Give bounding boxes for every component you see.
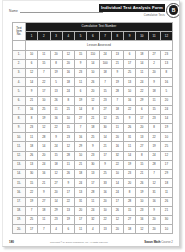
grid-cell[interactable]: 22 bbox=[136, 87, 148, 96]
grid-cell[interactable]: 9 bbox=[38, 188, 50, 197]
grid-cell[interactable]: 7 bbox=[38, 225, 50, 234]
grid-cell[interactable]: 13 bbox=[26, 160, 38, 169]
grid-cell[interactable]: 23 bbox=[160, 50, 172, 59]
grid-cell[interactable]: 9 bbox=[99, 160, 111, 169]
grid-cell[interactable]: 20 bbox=[50, 50, 62, 59]
grid-cell[interactable]: 13 bbox=[124, 78, 136, 87]
grid-cell[interactable]: 9 bbox=[87, 142, 99, 151]
grid-cell[interactable]: 26 bbox=[160, 197, 172, 206]
grid-cell[interactable]: 10 bbox=[87, 68, 99, 77]
grid-cell[interactable]: 100 bbox=[99, 59, 111, 68]
grid-cell[interactable]: 20 bbox=[75, 206, 87, 215]
grid-cell[interactable]: 23 bbox=[87, 151, 99, 160]
grid-cell[interactable]: 20 bbox=[111, 133, 123, 142]
grid-cell[interactable]: 21 bbox=[26, 96, 38, 105]
grid-cell[interactable]: 18 bbox=[124, 225, 136, 234]
grid-cell[interactable]: 27 bbox=[124, 215, 136, 224]
grid-cell[interactable]: 12 bbox=[99, 114, 111, 123]
grid-cell[interactable]: 9 bbox=[124, 114, 136, 123]
grid-cell[interactable]: 14 bbox=[75, 105, 87, 114]
grid-cell[interactable]: 10 bbox=[62, 114, 74, 123]
grid-cell[interactable]: 22 bbox=[124, 105, 136, 114]
grid-cell[interactable]: 26 bbox=[111, 206, 123, 215]
grid-cell[interactable]: 9 bbox=[75, 59, 87, 68]
grid-cell[interactable]: 20 bbox=[136, 124, 148, 133]
grid-cell[interactable]: 18 bbox=[50, 160, 62, 169]
grid-cell[interactable]: 11 bbox=[124, 142, 136, 151]
grid-cell[interactable]: 16 bbox=[124, 96, 136, 105]
grid-cell[interactable]: 22 bbox=[111, 160, 123, 169]
grid-cell[interactable]: 29 bbox=[136, 96, 148, 105]
grid-cell[interactable]: 18 bbox=[148, 87, 160, 96]
grid-cell[interactable]: 20 bbox=[50, 188, 62, 197]
grid-cell[interactable]: 16 bbox=[38, 170, 50, 179]
grid-cell[interactable]: 21 bbox=[87, 114, 99, 123]
grid-cell[interactable]: 9 bbox=[111, 68, 123, 77]
grid-cell[interactable]: 18 bbox=[38, 206, 50, 215]
grid-cell[interactable]: 23 bbox=[99, 96, 111, 105]
grid-cell[interactable]: 18 bbox=[87, 124, 99, 133]
grid-cell[interactable]: 16 bbox=[136, 215, 148, 224]
grid-cell[interactable]: 20 bbox=[160, 96, 172, 105]
grid-cell[interactable]: 10 bbox=[160, 133, 172, 142]
grid-cell[interactable]: 28 bbox=[148, 160, 160, 169]
grid-cell[interactable]: 27 bbox=[136, 142, 148, 151]
grid-cell[interactable]: 8 bbox=[26, 114, 38, 123]
grid-cell[interactable]: 8 bbox=[160, 68, 172, 77]
grid-cell[interactable]: 31 bbox=[75, 197, 87, 206]
grid-cell[interactable]: 6 bbox=[75, 87, 87, 96]
grid-cell[interactable]: 12 bbox=[62, 50, 74, 59]
grid-cell[interactable]: 11 bbox=[148, 96, 160, 105]
grid-cell[interactable]: 7 bbox=[148, 170, 160, 179]
grid-cell[interactable]: 6 bbox=[124, 50, 136, 59]
grid-cell[interactable]: 19 bbox=[160, 124, 172, 133]
grid-cell[interactable]: 18 bbox=[99, 68, 111, 77]
grid-cell[interactable]: 28 bbox=[87, 188, 99, 197]
grid-cell[interactable]: 20 bbox=[62, 59, 74, 68]
grid-cell[interactable]: 12 bbox=[50, 170, 62, 179]
name-write-in-line[interactable] bbox=[20, 8, 103, 13]
grid-cell[interactable]: 32 bbox=[87, 215, 99, 224]
grid-cell[interactable]: 18 bbox=[26, 142, 38, 151]
grid-cell[interactable]: 8 bbox=[50, 59, 62, 68]
grid-cell[interactable]: 29 bbox=[75, 142, 87, 151]
grid-cell[interactable]: 6 bbox=[62, 225, 74, 234]
grid-cell[interactable]: 11 bbox=[50, 105, 62, 114]
grid-cell[interactable]: 17 bbox=[87, 179, 99, 188]
grid-cell[interactable]: 27 bbox=[38, 197, 50, 206]
grid-cell[interactable]: 9 bbox=[148, 206, 160, 215]
grid-cell[interactable]: 25 bbox=[38, 105, 50, 114]
grid-cell[interactable]: 24 bbox=[38, 160, 50, 169]
grid-cell[interactable]: 23 bbox=[75, 68, 87, 77]
grid-cell[interactable]: 16 bbox=[75, 133, 87, 142]
grid-cell[interactable]: 9 bbox=[50, 133, 62, 142]
grid-cell[interactable]: 25 bbox=[124, 68, 136, 77]
grid-cell[interactable]: 12 bbox=[38, 124, 50, 133]
grid-cell[interactable]: 27 bbox=[148, 50, 160, 59]
grid-cell[interactable]: 12 bbox=[160, 151, 172, 160]
grid-cell[interactable]: 30 bbox=[87, 160, 99, 169]
grid-cell[interactable]: 18 bbox=[111, 105, 123, 114]
grid-cell[interactable]: 24 bbox=[148, 151, 160, 160]
grid-cell[interactable]: 14 bbox=[111, 179, 123, 188]
grid-cell[interactable]: 7 bbox=[75, 124, 87, 133]
grid-cell[interactable]: 21 bbox=[111, 59, 123, 68]
grid-cell[interactable]: 10 bbox=[160, 225, 172, 234]
grid-cell[interactable]: 27 bbox=[99, 105, 111, 114]
grid-cell[interactable]: 28 bbox=[38, 133, 50, 142]
grid-cell[interactable]: 9 bbox=[26, 87, 38, 96]
grid-cell[interactable]: 15 bbox=[62, 124, 74, 133]
grid-cell[interactable]: 15 bbox=[136, 160, 148, 169]
grid-cell[interactable]: 19 bbox=[50, 68, 62, 77]
grid-cell[interactable]: 26 bbox=[26, 151, 38, 160]
grid-cell[interactable]: 19 bbox=[124, 160, 136, 169]
grid-cell[interactable]: 20 bbox=[148, 225, 160, 234]
grid-cell[interactable]: 14 bbox=[160, 114, 172, 123]
grid-cell[interactable]: 18 bbox=[62, 78, 74, 87]
grid-cell[interactable]: 14 bbox=[50, 197, 62, 206]
grid-cell[interactable]: 4 bbox=[50, 225, 62, 234]
grid-cell[interactable]: 5 bbox=[50, 78, 62, 87]
grid-cell[interactable]: 12 bbox=[26, 68, 38, 77]
grid-cell[interactable]: 33 bbox=[99, 179, 111, 188]
grid-cell[interactable]: 23 bbox=[62, 133, 74, 142]
